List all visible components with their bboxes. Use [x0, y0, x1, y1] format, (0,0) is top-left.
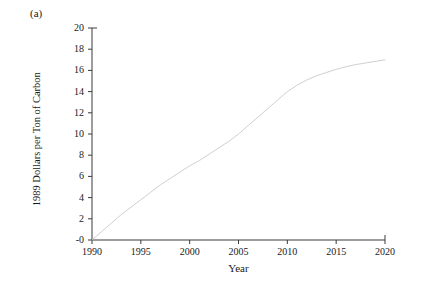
series-line-0 — [92, 60, 385, 240]
y-tick-label: -0 — [50, 235, 84, 245]
x-tick-label: 2010 — [267, 247, 307, 257]
x-tick-label: 1995 — [121, 247, 161, 257]
x-tick-label: 2015 — [316, 247, 356, 257]
x-tick-label: 2020 — [365, 247, 405, 257]
y-tick-label: 8 — [50, 150, 84, 160]
x-tick-label: 2000 — [170, 247, 210, 257]
y-tick-label: 14 — [50, 87, 84, 97]
y-tick-label: 10 — [50, 129, 84, 139]
figure-panel-a: (a) 1989 Dollars per Ton of Carbon Year … — [0, 0, 425, 289]
y-tick-label: 6 — [50, 171, 84, 181]
y-tick-label: 4 — [50, 193, 84, 203]
data-series — [92, 60, 385, 240]
y-tick-label: 12 — [50, 108, 84, 118]
y-tick-label: 18 — [50, 44, 84, 54]
y-tick-label: 16 — [50, 65, 84, 75]
y-tick-label: 20 — [50, 23, 84, 33]
y-tick-label: 2 — [50, 214, 84, 224]
x-tick-label: 1990 — [72, 247, 112, 257]
x-tick-label: 2005 — [219, 247, 259, 257]
